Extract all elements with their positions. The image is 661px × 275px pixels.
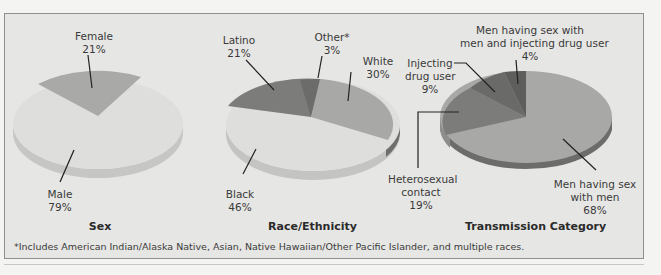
label-idu-line1: Injecting xyxy=(405,57,455,70)
label-msm: Men having sex with men 68% xyxy=(550,178,640,217)
label-msm-idu-line2: men and injecting drug user xyxy=(460,37,600,50)
label-msm-idu-line1: Men having sex with xyxy=(460,24,600,37)
label-female-pct: 21% xyxy=(72,43,116,56)
label-heterosexual: Heterosexual contact 19% xyxy=(388,173,454,212)
label-black-pct: 46% xyxy=(222,201,258,214)
label-male: Male 79% xyxy=(42,188,78,214)
label-white-pct: 30% xyxy=(358,68,398,81)
sex-pie xyxy=(13,55,183,182)
label-het-line1: Heterosexual xyxy=(388,173,454,186)
label-latino: Latino 21% xyxy=(219,34,259,60)
label-latino-name: Latino xyxy=(219,34,259,47)
label-msm-idu-pct: 4% xyxy=(460,50,600,63)
label-black-name: Black xyxy=(222,188,258,201)
label-male-pct: 79% xyxy=(42,201,78,214)
transmission-chart-title: Transmission Category xyxy=(465,220,585,233)
label-het-line2: contact xyxy=(388,186,454,199)
label-other: Other* 3% xyxy=(312,31,352,57)
label-female: Female 21% xyxy=(72,30,116,56)
label-msm-pct: 68% xyxy=(550,204,640,217)
label-idu-line2: drug user xyxy=(405,70,455,83)
label-white: White 30% xyxy=(358,55,398,81)
sex-chart-title: Sex xyxy=(80,220,120,233)
race-chart-title: Race/Ethnicity xyxy=(260,220,365,233)
label-idu: Injecting drug user 9% xyxy=(405,57,455,96)
label-other-pct: 3% xyxy=(312,44,352,57)
label-latino-pct: 21% xyxy=(219,47,259,60)
label-msm-line2: with men xyxy=(550,191,640,204)
label-white-name: White xyxy=(358,55,398,68)
label-black: Black 46% xyxy=(222,188,258,214)
label-male-name: Male xyxy=(42,188,78,201)
label-idu-pct: 9% xyxy=(405,83,455,96)
label-female-name: Female xyxy=(72,30,116,43)
label-other-name: Other* xyxy=(312,31,352,44)
label-het-pct: 19% xyxy=(388,199,454,212)
label-msm-line1: Men having sex xyxy=(550,178,640,191)
label-msm-idu: Men having sex with men and injecting dr… xyxy=(460,24,600,63)
footnote: *Includes American Indian/Alaska Native,… xyxy=(14,241,524,252)
